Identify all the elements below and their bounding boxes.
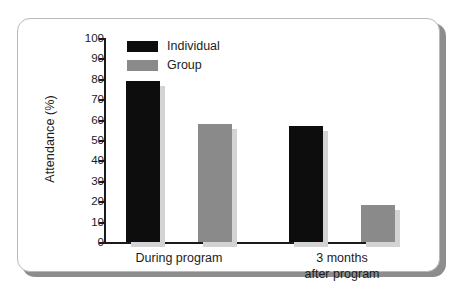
y-tick-label-row: 30 bbox=[60, 176, 104, 187]
bar-group-0 bbox=[198, 124, 232, 242]
y-tick-label: 50 bbox=[74, 135, 104, 146]
y-axis-title: Attendance (%) bbox=[43, 59, 57, 219]
y-tick-label-row: 60 bbox=[60, 115, 104, 126]
y-tick-label-row: 90 bbox=[60, 53, 104, 64]
y-tick-label: 100 bbox=[74, 33, 104, 44]
y-axis-line bbox=[104, 38, 106, 244]
legend-swatch-individual bbox=[127, 41, 158, 52]
bar-individual-1 bbox=[289, 126, 323, 242]
y-tick-label-row: 70 bbox=[60, 94, 104, 105]
bar-chart-plot: Attendance (%) 1009080706050403020100 Du… bbox=[0, 0, 464, 304]
y-tick-label-row: 80 bbox=[60, 74, 104, 85]
x-category-label-line: During program bbox=[99, 250, 259, 266]
bar-individual-0 bbox=[126, 81, 160, 242]
y-tick-label: 90 bbox=[74, 53, 104, 64]
bar-group-1 bbox=[361, 205, 395, 242]
y-tick-label: 30 bbox=[74, 176, 104, 187]
x-category-label: During program bbox=[99, 250, 259, 266]
y-tick-label-row: 0 bbox=[60, 237, 104, 248]
y-tick-label: 60 bbox=[74, 115, 104, 126]
legend-label: Group bbox=[167, 58, 202, 72]
y-tick-label: 80 bbox=[74, 74, 104, 85]
legend-swatch-group bbox=[127, 60, 158, 71]
y-tick-label-row: 10 bbox=[60, 217, 104, 228]
x-category-label: 3 monthsafter program bbox=[262, 250, 422, 282]
y-tick-label-row: 100 bbox=[60, 33, 104, 44]
y-tick-label: 70 bbox=[74, 94, 104, 105]
y-tick-label: 40 bbox=[74, 155, 104, 166]
legend-label: Individual bbox=[167, 39, 220, 53]
y-tick-label: 0 bbox=[74, 237, 104, 248]
figure-root: Attendance (%) 1009080706050403020100 Du… bbox=[0, 0, 464, 304]
legend-item: Individual bbox=[127, 38, 220, 54]
y-tick-label: 10 bbox=[74, 217, 104, 228]
y-tick-label: 20 bbox=[74, 196, 104, 207]
y-tick-label-row: 40 bbox=[60, 155, 104, 166]
chart-legend: IndividualGroup bbox=[127, 38, 220, 76]
legend-item: Group bbox=[127, 57, 220, 73]
x-category-label-line: 3 months bbox=[262, 250, 422, 266]
y-tick-label-row: 50 bbox=[60, 135, 104, 146]
x-category-label-line: after program bbox=[262, 266, 422, 282]
y-tick-label-row: 20 bbox=[60, 196, 104, 207]
